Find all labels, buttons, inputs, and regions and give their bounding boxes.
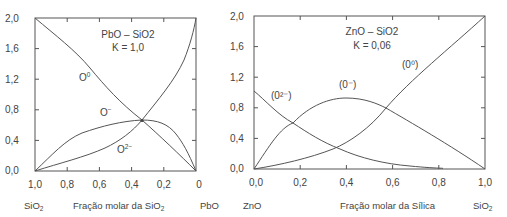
y-tick-label: 1,6 (230, 41, 244, 52)
x-tick-label: 1,0 (28, 179, 42, 190)
x-axis-title: Fração molar da SiO2 (73, 200, 165, 212)
x-end-label-pbo: PbO (200, 200, 219, 211)
chart-title: ZnO – SiO2 (346, 26, 399, 37)
y-ticks (35, 49, 196, 141)
x-tick-label: 0,0 (249, 177, 263, 188)
figure: 0,0 0,4 0,8 1,2 1,6 2,0 1,0 0,8 0,6 0,4 … (0, 0, 507, 217)
label-o0: (0⁰) (402, 59, 418, 70)
x-axis-title: Fração molar da Sílica (340, 200, 436, 211)
y-tick-label: 0,0 (5, 165, 19, 176)
chart-subtitle: K = 1,0 (112, 42, 144, 53)
y-tick-label: 2,0 (5, 13, 19, 24)
x-tick-labels: 1,0 0,8 0,6 0,4 0,2 0 (28, 179, 202, 190)
chart-subtitle: K = 0,06 (353, 40, 391, 51)
y-tick-label: 0,4 (230, 133, 244, 144)
y-tick-label: 0,4 (5, 135, 19, 146)
x-tick-label: 0,6 (386, 177, 400, 188)
label-o-minus: (0⁻) (339, 79, 356, 90)
x-tick-label: 0,8 (432, 177, 446, 188)
x-tick-label: 0,4 (339, 177, 353, 188)
x-tick-label: 1,0 (478, 177, 492, 188)
x-ticks (67, 18, 164, 171)
x-end-label-sio2: SiO2 (24, 200, 44, 212)
y-tick-labels: 0,0 0,4 0,8 1,2 1,6 2,0 (5, 13, 19, 176)
label-o2-minus: O2− (117, 143, 132, 155)
label-o0: O0 (79, 71, 91, 83)
x-tick-label: 0,2 (293, 177, 307, 188)
y-tick-label: 2,0 (230, 11, 244, 22)
y-tick-label: 1,6 (5, 43, 19, 54)
y-tick-label: 0,8 (230, 102, 244, 113)
x-end-label-zno: ZnO (243, 200, 261, 211)
y-tick-label: 1,2 (230, 72, 244, 83)
chart-pbo-sio2: 0,0 0,4 0,8 1,2 1,6 2,0 1,0 0,8 0,6 0,4 … (5, 13, 219, 212)
y-tick-label: 1,2 (5, 74, 19, 85)
x-tick-label: 0 (196, 179, 202, 190)
intersection-point (140, 119, 143, 122)
x-tick-label: 0,4 (125, 179, 139, 190)
x-end-label-sio2: SiO2 (473, 200, 493, 212)
x-tick-label: 0,2 (157, 179, 171, 190)
x-ticks (300, 16, 439, 169)
y-tick-labels: 0,0 0,4 0,8 1,2 1,6 2,0 (230, 11, 244, 174)
y-tick-label: 0,0 (230, 163, 244, 174)
label-o-minus: O− (100, 106, 112, 118)
x-tick-labels: 0,0 0,2 0,4 0,6 0,8 1,0 (249, 177, 492, 188)
chart-title: PbO – SiO2 (101, 29, 155, 40)
curve-o-minus (254, 98, 485, 169)
label-o2-minus: (0²⁻) (271, 90, 292, 101)
chart-zno-sio2: 0,0 0,4 0,8 1,2 1,6 2,0 0,0 0,2 0,4 0,6 … (230, 11, 493, 212)
x-tick-label: 0,8 (60, 179, 74, 190)
y-tick-label: 0,8 (5, 104, 19, 115)
x-tick-label: 0,6 (92, 179, 106, 190)
